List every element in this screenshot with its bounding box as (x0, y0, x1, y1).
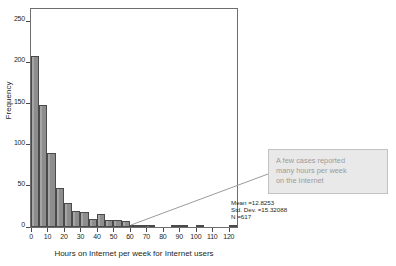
x-tick-label: 50 (110, 233, 117, 240)
x-tick-label: 120 (223, 233, 234, 240)
y-tick-mark (26, 185, 30, 186)
x-tick-mark (229, 228, 230, 232)
histogram-bar (229, 225, 237, 227)
x-tick-mark (130, 228, 131, 232)
x-tick-label: 60 (126, 233, 133, 240)
y-tick-label: 200 (14, 56, 25, 63)
x-tick-mark (64, 228, 65, 232)
x-tick-label: 90 (176, 233, 183, 240)
x-tick-mark (47, 228, 48, 232)
stat-n: N =617 (231, 213, 287, 220)
x-tick-mark (113, 228, 114, 232)
y-tick-label: 150 (14, 98, 25, 105)
x-tick-label: 40 (93, 233, 100, 240)
histogram-bar (31, 56, 39, 227)
x-tick-label: 20 (60, 233, 67, 240)
histogram-bar (113, 220, 121, 227)
annotation-callout: A few cases reported many hours per week… (268, 149, 388, 194)
x-tick-label: 30 (77, 233, 84, 240)
histogram-figure: 050100150200250 Frequency 01020304050607… (0, 0, 396, 266)
callout-line-3: on the Internet (276, 176, 380, 186)
x-tick-mark (212, 228, 213, 232)
histogram-bar (105, 220, 113, 227)
x-axis: 0102030405060708090100110120 (30, 228, 238, 246)
x-tick-label: 80 (159, 233, 166, 240)
histogram-bar (64, 203, 72, 227)
x-tick-mark (179, 228, 180, 232)
y-tick-mark (26, 62, 30, 63)
y-tick-mark (26, 144, 30, 145)
y-tick-mark (26, 103, 30, 104)
x-tick-mark (163, 228, 164, 232)
x-axis-title: Hours on Internet per week for Internet … (30, 249, 238, 258)
callout-line-2: many hours per week (276, 166, 380, 176)
x-tick-mark (97, 228, 98, 232)
x-tick-mark (31, 228, 32, 232)
x-tick-mark (80, 228, 81, 232)
histogram-bar (171, 225, 179, 227)
y-tick-label: 100 (14, 139, 25, 146)
x-tick-label: 100 (190, 233, 201, 240)
histogram-bar (196, 225, 204, 227)
x-tick-mark (146, 228, 147, 232)
histogram-bar (56, 188, 64, 227)
histogram-bars (31, 9, 237, 227)
x-tick-label: 0 (29, 233, 33, 240)
stat-std-dev: Std. Dev. =15.32088 (231, 206, 287, 213)
histogram-bar (97, 214, 105, 227)
y-tick-label: 250 (14, 15, 25, 22)
histogram-bar (130, 225, 138, 227)
x-tick-label: 70 (143, 233, 150, 240)
stat-mean: Mean =12.8253 (231, 199, 287, 206)
histogram-bar (179, 225, 187, 227)
histogram-bar (80, 212, 88, 227)
x-tick-label: 110 (207, 233, 218, 240)
statistics-block: Mean =12.8253 Std. Dev. =15.32088 N =617 (231, 199, 287, 221)
x-tick-mark (196, 228, 197, 232)
histogram-bar (39, 105, 47, 227)
y-tick-label: 50 (18, 180, 25, 187)
y-axis-title: Frequency (4, 69, 13, 133)
histogram-bar (122, 221, 130, 227)
histogram-bar (89, 219, 97, 227)
histogram-bar (146, 225, 154, 227)
y-tick-mark (26, 21, 30, 22)
callout-line-1: A few cases reported (276, 156, 380, 166)
histogram-bar (72, 211, 80, 227)
x-tick-label: 10 (44, 233, 51, 240)
histogram-bar (47, 153, 55, 227)
y-tick-label: 0 (21, 221, 25, 228)
histogram-bar (138, 225, 146, 227)
